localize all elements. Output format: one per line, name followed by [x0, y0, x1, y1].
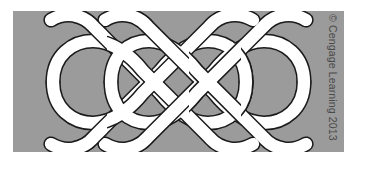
- knot-panel: [13, 11, 344, 152]
- figure-root: © Cengage Learning 2013: [0, 0, 371, 169]
- copyright-credit: © Cengage Learning 2013: [326, 14, 340, 154]
- celtic-knot-graphic: [13, 11, 344, 152]
